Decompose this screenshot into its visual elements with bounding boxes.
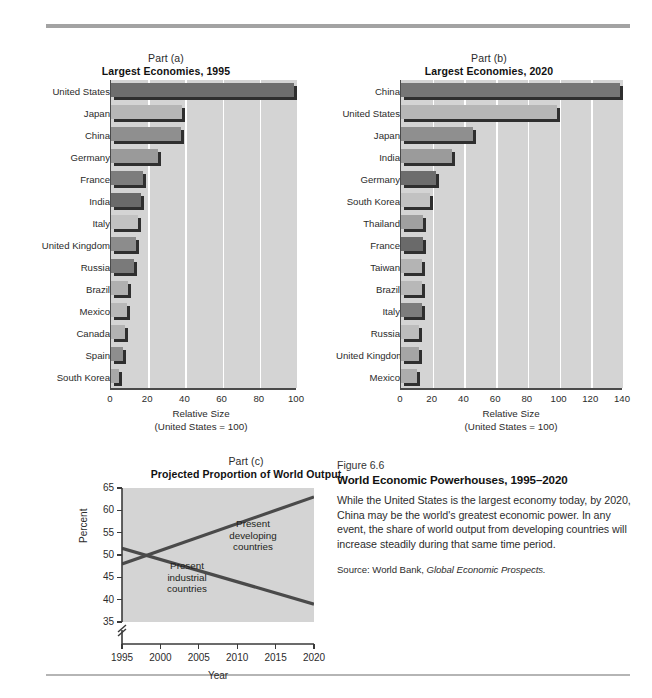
bar-shadow-bottom [404, 273, 425, 276]
bar [401, 259, 425, 276]
bar-shadow-bottom [404, 229, 426, 232]
gridline [223, 80, 225, 388]
bar-shadow-bottom [114, 185, 146, 188]
bar-category-label: Russia [12, 263, 110, 273]
figure-source: Source: World Bank, Global Economic Pros… [337, 564, 637, 575]
bar-face [401, 105, 557, 119]
bar-face [111, 281, 128, 295]
bar [111, 193, 144, 210]
part-c-series-label-developing: Presentdevelopingcountries [214, 518, 292, 553]
bar-category-label: Brazil [12, 285, 110, 295]
bar-category-label: China [336, 87, 400, 97]
part-b-plot-area: ChinaUnited StatesJapanIndiaGermanySouth… [330, 80, 630, 392]
bar [401, 281, 425, 298]
part-c-yaxis-title: Percent [78, 509, 89, 543]
bar [401, 215, 426, 232]
bar-shadow-bottom [404, 119, 560, 122]
bar-category-label: Spain [12, 351, 110, 361]
source-label: Source: [337, 564, 370, 575]
figure-caption: Figure 6.6 World Economic Powerhouses, 1… [337, 458, 637, 575]
part-a-xaxis-subtitle: (United States = 100) [28, 421, 374, 432]
bar-face [401, 171, 436, 185]
bar [401, 347, 422, 364]
bar-face [111, 127, 181, 141]
bar [401, 325, 422, 342]
bar-face [401, 281, 422, 295]
bar-shadow-bottom [404, 251, 426, 254]
bar-face [401, 215, 423, 229]
bar-shadow-bottom [114, 229, 141, 232]
gridline [591, 80, 593, 388]
bar [111, 83, 297, 100]
bar-shadow-bottom [114, 361, 126, 364]
bar-face [111, 149, 158, 163]
y-axis-tick [117, 510, 122, 511]
figure-title: World Economic Powerhouses, 1995–2020 [337, 472, 637, 488]
part-c-plot-area: Presentdevelopingcountries Presentindust… [122, 488, 314, 622]
x-axis-tick-label: 20 [417, 393, 447, 404]
bar-face [401, 325, 419, 339]
bar-category-label: Canada [12, 329, 110, 339]
bar [401, 193, 433, 210]
chart-part-a: Part (a) Largest Economies, 1995 United … [6, 52, 326, 432]
y-axis-tick [117, 621, 122, 622]
bar-face [111, 171, 143, 185]
y-axis-tick [117, 599, 122, 600]
series-label-line: Present [152, 560, 222, 572]
x-axis-tick [160, 644, 161, 649]
bar-category-label: United States [12, 87, 110, 97]
y-axis-tick [117, 532, 122, 533]
y-axis-tick-label: 40 [94, 595, 114, 605]
x-axis-tick-label: 0 [95, 393, 125, 404]
bar [401, 149, 455, 166]
x-axis-tick-label: 2015 [259, 652, 293, 663]
bar-shadow-bottom [404, 383, 420, 386]
x-axis-tick-label: 60 [207, 393, 237, 404]
bar-face [111, 215, 138, 229]
bar-face [111, 303, 127, 317]
bar-category-labels: ChinaUnited StatesJapanIndiaGermanySouth… [330, 80, 400, 388]
part-b-part-label: Part (b) [330, 52, 648, 64]
bar-shadow-bottom [114, 295, 131, 298]
bar-category-label: Mexico [12, 307, 110, 317]
y-axis-tick [117, 554, 122, 555]
source-work: Global Economic Prospects. [427, 564, 546, 575]
bar-face [401, 369, 417, 383]
x-axis-tick-label: 20 [132, 393, 162, 404]
y-axis-tick-label: 60 [94, 505, 114, 515]
bar-category-label: Italy [336, 307, 400, 317]
bar-shadow-bottom [114, 317, 130, 320]
top-divider-rule [46, 24, 630, 28]
bar-category-label: Taiwan [336, 263, 400, 273]
figure-number: Figure 6.6 [337, 458, 637, 472]
bar [401, 237, 426, 254]
x-axis-tick-label: 2010 [220, 652, 254, 663]
source-publisher: World Bank, [372, 564, 424, 575]
bar-shadow-bottom [114, 163, 161, 166]
gridline [623, 80, 625, 388]
bar [401, 171, 439, 188]
bar-category-label: India [336, 153, 400, 163]
part-b-title: Largest Economies, 2020 [330, 65, 648, 77]
bar-face [401, 83, 620, 97]
bar-shadow-bottom [114, 273, 137, 276]
part-a-title: Largest Economies, 1995 [6, 65, 326, 77]
y-axis-tick [117, 577, 122, 578]
gridline [496, 80, 498, 388]
x-axis-tick-label: 100 [544, 393, 574, 404]
series-label-line: industrial [152, 572, 222, 584]
x-axis-tick-label: 80 [244, 393, 274, 404]
y-axis-tick-label: 50 [94, 550, 114, 560]
part-a-xaxis-title: Relative Size [28, 408, 374, 419]
bar-face [111, 347, 123, 361]
bar-category-label: Thailand [336, 219, 400, 229]
bar [111, 303, 130, 320]
part-a-plot-area: United StatesJapanChinaGermanyFranceIndi… [6, 80, 304, 392]
bar-face [401, 259, 422, 273]
figure-body-text: While the United States is the largest e… [337, 493, 637, 551]
x-axis-tick [313, 644, 314, 649]
bar-category-label: France [12, 175, 110, 185]
x-axis-tick-label: 0 [385, 393, 415, 404]
bar-face [111, 105, 182, 119]
bar-shadow-bottom [114, 207, 144, 210]
